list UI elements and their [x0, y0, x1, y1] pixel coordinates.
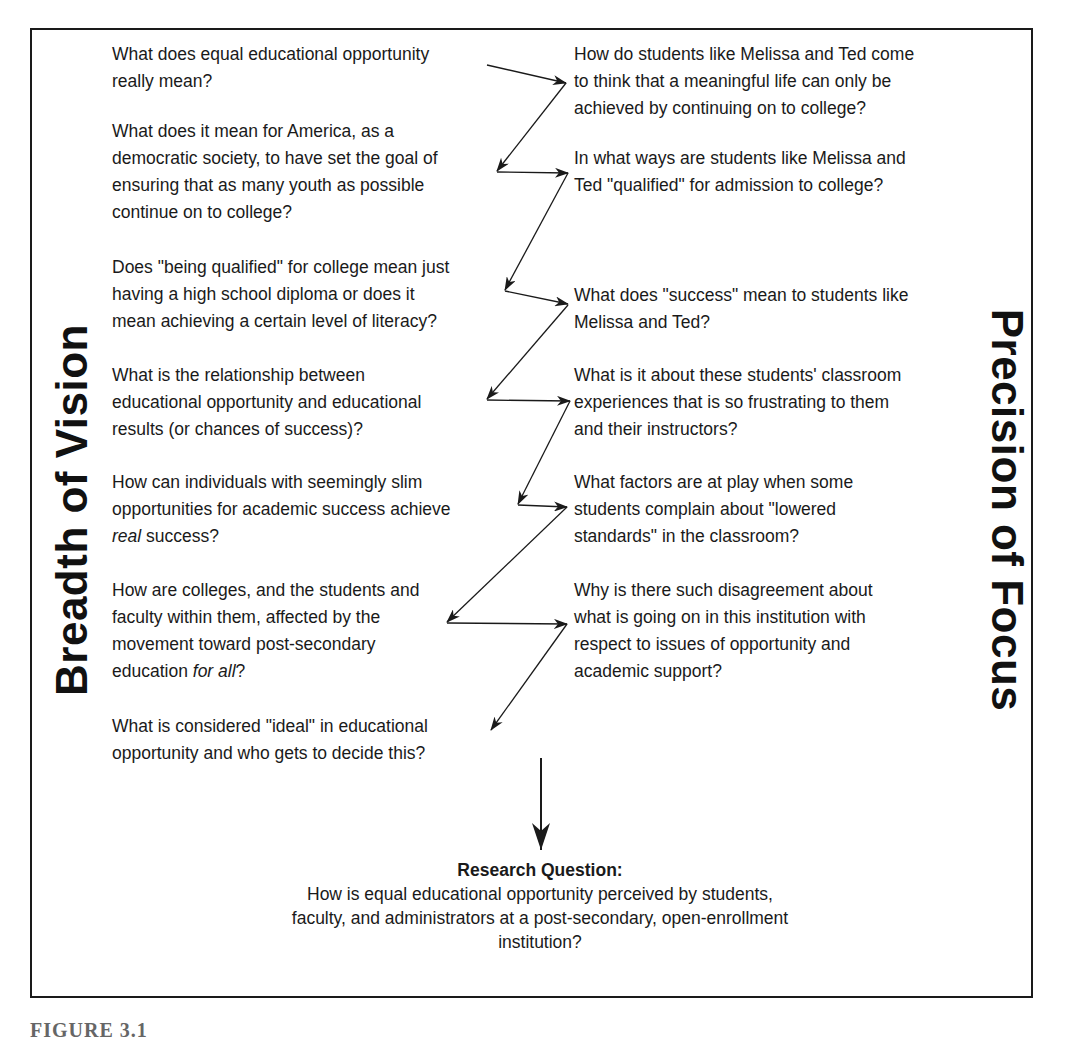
left-question-5-pre: How can individuals with seemingly slim …: [112, 472, 451, 519]
left-question-6-pre: How are colleges, and the students and f…: [112, 580, 419, 681]
right-question-6: Why is there such disagreement about wha…: [574, 577, 984, 685]
precision-of-focus-title: Precision of Focus: [985, 309, 1029, 712]
right-question-1: How do students like Melissa and Ted com…: [574, 41, 984, 122]
left-question-5-post: success?: [141, 526, 219, 546]
left-question-7: What is considered "ideal" in educationa…: [112, 713, 502, 767]
left-question-5-emphasis: real: [112, 526, 141, 546]
left-question-1: What does equal educational opportunity …: [112, 41, 502, 95]
left-question-6-post: ?: [236, 661, 246, 681]
research-question-text: How is equal educational opportunity per…: [292, 884, 788, 952]
left-question-6: How are colleges, and the students and f…: [112, 577, 502, 685]
left-question-6-emphasis: for all: [193, 661, 236, 681]
left-question-3: Does "being qualified" for college mean …: [112, 254, 502, 335]
left-question-5: How can individuals with seemingly slim …: [112, 469, 502, 550]
left-question-4: What is the relationship between educati…: [112, 362, 502, 443]
right-question-2: In what ways are students like Melissa a…: [574, 145, 984, 199]
right-question-4: What is it about these students' classro…: [574, 362, 984, 443]
research-question-heading: Research Question:: [290, 858, 790, 882]
breadth-of-vision-title: Breadth of Vision: [50, 324, 94, 696]
research-question: Research Question: How is equal educatio…: [290, 858, 790, 954]
right-question-5: What factors are at play when some stude…: [574, 469, 984, 550]
figure-caption: FIGURE 3.1: [30, 1019, 148, 1041]
left-question-2: What does it mean for America, as a demo…: [112, 118, 502, 226]
right-question-3: What does "success" mean to students lik…: [574, 282, 984, 336]
